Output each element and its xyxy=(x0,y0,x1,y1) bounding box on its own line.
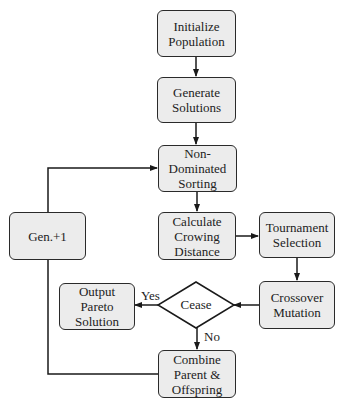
node-combine-parent-offspring: Combine Parent & Offspring xyxy=(158,350,236,398)
node-tournament-selection: Tournament Selection xyxy=(259,212,335,258)
edge-label-no: No xyxy=(204,329,220,345)
flowchart-canvas: Initialize Population Generate Solutions… xyxy=(0,0,347,412)
node-gen-plus-one: Gen.+1 xyxy=(9,212,86,260)
arrow-gen-to-sorting xyxy=(48,168,157,212)
node-initialize-population: Initialize Population xyxy=(157,10,236,57)
node-non-dominated-sorting: Non- Dominated Sorting xyxy=(158,145,237,192)
node-generate-solutions: Generate Solutions xyxy=(157,77,236,123)
node-crossover-mutation: Crossover Mutation xyxy=(259,281,335,329)
decision-cease-label: Cease xyxy=(166,297,226,313)
node-output-pareto-solution: Output Pareto Solution xyxy=(59,283,135,330)
node-calculate-crowding-distance: Calculate Crowing Distance xyxy=(158,212,236,260)
edge-label-yes: Yes xyxy=(141,288,160,304)
